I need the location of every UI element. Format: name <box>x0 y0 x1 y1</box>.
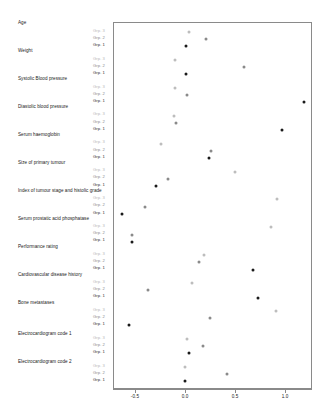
group-label-2: Grp. 2 <box>0 259 108 264</box>
group-label-3: Grp. 3 <box>0 112 108 117</box>
group-label-1: Grp. 1 <box>0 294 108 299</box>
variable-label-weight: Weight <box>18 48 33 53</box>
group-label-3: Grp. 3 <box>0 308 108 313</box>
data-point <box>303 101 306 104</box>
data-point <box>155 184 158 187</box>
group-label-3: Grp. 3 <box>0 168 108 173</box>
group-label-2: Grp. 2 <box>0 231 108 236</box>
group-label-3: Grp. 3 <box>0 57 108 62</box>
data-point <box>174 86 177 89</box>
data-point <box>121 212 124 215</box>
data-point <box>174 58 177 61</box>
x-axis-tick-mark <box>285 390 286 393</box>
group-label-1: Grp. 1 <box>0 238 108 243</box>
group-label-2: Grp. 2 <box>0 315 108 320</box>
group-label-2: Grp. 2 <box>0 287 108 292</box>
group-label-1: Grp. 1 <box>0 43 108 48</box>
data-point <box>186 337 189 340</box>
x-axis-tick-mark <box>185 390 186 393</box>
variable-label-performance-rating: Performance rating <box>18 244 58 249</box>
data-point <box>131 240 134 243</box>
group-label-3: Grp. 3 <box>0 280 108 285</box>
group-label-1: Grp. 1 <box>0 350 108 355</box>
x-axis-tick-mark <box>235 390 236 393</box>
group-label-1: Grp. 1 <box>0 99 108 104</box>
data-point <box>243 66 246 69</box>
group-label-1: Grp. 1 <box>0 266 108 271</box>
data-point <box>188 352 191 355</box>
data-point <box>198 261 201 264</box>
x-axis-tick-label: 1.0 <box>282 394 289 400</box>
group-label-3: Grp. 3 <box>0 252 108 257</box>
group-label-2: Grp. 2 <box>0 148 108 153</box>
group-label-1: Grp. 1 <box>0 127 108 132</box>
group-label-1: Grp. 1 <box>0 211 108 216</box>
data-point <box>257 296 260 299</box>
data-point <box>147 289 150 292</box>
data-point <box>205 38 208 41</box>
data-point <box>185 45 188 48</box>
group-label-2: Grp. 2 <box>0 175 108 180</box>
data-point <box>188 31 191 34</box>
forest-dot-plot: Age Weight Systolic Blood pressure Diast… <box>0 0 325 418</box>
group-label-2: Grp. 2 <box>0 203 108 208</box>
group-label-3: Grp. 3 <box>0 364 108 369</box>
variable-label-age: Age <box>18 20 26 25</box>
group-label-3: Grp. 3 <box>0 336 108 341</box>
variable-label-index-of-tumour-stage: Index of tumour stage and histolic grade <box>18 188 102 193</box>
x-axis-line <box>113 389 312 390</box>
data-point <box>184 365 187 368</box>
group-label-2: Grp. 2 <box>0 64 108 69</box>
group-label-2: Grp. 2 <box>0 36 108 41</box>
data-point <box>191 282 194 285</box>
x-axis-tick-label: -0.5 <box>131 394 139 400</box>
data-point <box>208 157 211 160</box>
group-label-2: Grp. 2 <box>0 92 108 97</box>
data-point <box>275 310 278 313</box>
data-point <box>210 149 213 152</box>
variable-label-serum-prostatic-acid-phosphatase: Serum prostatic acid phosphatase <box>18 216 89 221</box>
data-point <box>186 94 189 97</box>
group-label-3: Grp. 3 <box>0 29 108 34</box>
data-point <box>184 380 187 383</box>
data-point <box>252 268 255 271</box>
data-point <box>209 317 212 320</box>
group-label-2: Grp. 2 <box>0 120 108 125</box>
group-label-3: Grp. 3 <box>0 196 108 201</box>
x-axis-tick-label: 0.5 <box>232 394 239 400</box>
group-label-3: Grp. 3 <box>0 224 108 229</box>
x-axis-tick-mark <box>135 390 136 393</box>
data-point <box>144 205 147 208</box>
data-point <box>226 373 229 376</box>
variable-label-bone-metastases: Bone metastases <box>18 300 54 305</box>
data-point <box>131 233 134 236</box>
data-point <box>167 177 170 180</box>
data-point <box>276 198 279 201</box>
data-point <box>128 324 131 327</box>
data-point <box>202 345 205 348</box>
group-label-3: Grp. 3 <box>0 140 108 145</box>
variable-label-cardiovascular-disease-history: Cardiovascular disease history <box>18 272 82 277</box>
data-point <box>234 170 237 173</box>
data-point <box>281 129 284 132</box>
data-point <box>160 142 163 145</box>
group-label-2: Grp. 2 <box>0 371 108 376</box>
data-point <box>173 114 176 117</box>
group-label-1: Grp. 1 <box>0 322 108 327</box>
data-point <box>203 254 206 257</box>
variable-label-systolic-blood-pressure: Systolic Blood pressure <box>18 76 67 81</box>
group-label-1: Grp. 1 <box>0 183 108 188</box>
x-axis-tick-label: 0.0 <box>182 394 189 400</box>
data-point <box>175 121 178 124</box>
group-label-1: Grp. 1 <box>0 71 108 76</box>
group-label-3: Grp. 3 <box>0 85 108 90</box>
group-label-1: Grp. 1 <box>0 378 108 383</box>
plot-panel <box>113 22 312 389</box>
group-label-2: Grp. 2 <box>0 343 108 348</box>
variable-label-serum-haemoglobin: Serum haemoglobin <box>18 132 60 137</box>
variable-label-diastolic-blood-pressure: Diastolic blood pressure <box>18 104 68 109</box>
data-point <box>185 73 188 76</box>
data-point <box>270 226 273 229</box>
group-label-1: Grp. 1 <box>0 155 108 160</box>
variable-label-size-of-primary-tumour: Size of primary tumour <box>18 160 65 165</box>
